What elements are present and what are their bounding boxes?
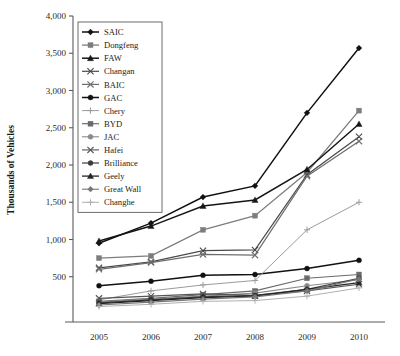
- line-chart: 5001,0001,5002,0002,5003,0003,5004,000 2…: [0, 0, 400, 356]
- y-tick-label: 2,000: [46, 160, 67, 170]
- data-point-marker: [357, 108, 362, 113]
- x-tick-label: 2007: [194, 332, 213, 342]
- data-point-marker: [201, 273, 206, 278]
- data-point-marker: [357, 258, 362, 263]
- legend-item-label: JAC: [104, 132, 120, 142]
- chart-legend: SAICDongfengFAWChanganBAICGACCheryBYDJAC…: [78, 22, 162, 212]
- legend-item-label: Changhe: [104, 197, 135, 207]
- x-tick-label: 2010: [350, 332, 369, 342]
- data-point-marker: [253, 272, 258, 277]
- series-path: [99, 202, 359, 300]
- y-tick-label: 2,500: [46, 123, 67, 133]
- data-point-marker: [97, 256, 102, 261]
- y-tick-label: 3,500: [46, 48, 67, 58]
- legend-item-label: SAIC: [104, 27, 124, 37]
- y-tick-label: 3,000: [46, 86, 67, 96]
- legend-item-label: FAW: [104, 53, 123, 63]
- x-axis: 200520062007200820092010: [65, 322, 385, 342]
- data-point-marker: [148, 288, 154, 294]
- legend-item-label: Hafei: [104, 145, 124, 155]
- legend-item-label: GAC: [104, 93, 122, 103]
- data-point-marker: [356, 138, 362, 144]
- legend-item-label: Geely: [104, 171, 125, 181]
- data-point-marker: [88, 121, 93, 126]
- legend-item-label: BAIC: [104, 80, 125, 90]
- data-point-marker: [201, 227, 206, 232]
- data-point-marker: [88, 43, 93, 48]
- data-point-marker: [305, 266, 310, 271]
- data-point-marker: [253, 213, 258, 218]
- data-point-marker: [88, 95, 93, 100]
- legend-item-label: Brilliance: [104, 158, 138, 168]
- chart-canvas: 5001,0001,5002,0002,5003,0003,5004,000 2…: [0, 0, 400, 356]
- y-tick-label: 1,500: [46, 197, 67, 207]
- legend-item-label: Dongfeng: [104, 40, 139, 50]
- legend-item-label: BYD: [104, 119, 122, 129]
- data-point-marker: [356, 121, 362, 127]
- data-point-marker: [88, 134, 93, 139]
- data-point-marker: [149, 279, 154, 284]
- y-tick-label: 4,000: [46, 11, 67, 21]
- data-point-marker: [200, 194, 206, 200]
- legend-item-label: Changan: [104, 66, 135, 76]
- y-tick-label: 1,000: [46, 235, 67, 245]
- data-point-marker: [97, 283, 102, 288]
- series-great-wall: [96, 276, 362, 308]
- x-tick-label: 2005: [90, 332, 109, 342]
- y-axis-title: Thousands of Vehicles: [6, 125, 16, 215]
- y-axis-title-text: Thousands of Vehicles: [6, 125, 16, 215]
- x-tick-label: 2009: [298, 332, 317, 342]
- data-point-marker: [304, 293, 310, 299]
- y-tick-label: 500: [53, 272, 67, 282]
- data-point-marker: [149, 253, 154, 258]
- x-tick-label: 2008: [246, 332, 265, 342]
- data-point-marker: [356, 199, 362, 205]
- data-point-marker: [200, 282, 206, 288]
- legend-item-label: Great Wall: [104, 184, 142, 194]
- data-point-marker: [88, 161, 93, 166]
- data-point-marker: [305, 276, 310, 281]
- legend-item-label: Chery: [104, 106, 126, 116]
- y-axis: 5001,0001,5002,0002,5003,0003,5004,000: [46, 11, 73, 322]
- x-tick-label: 2006: [142, 332, 161, 342]
